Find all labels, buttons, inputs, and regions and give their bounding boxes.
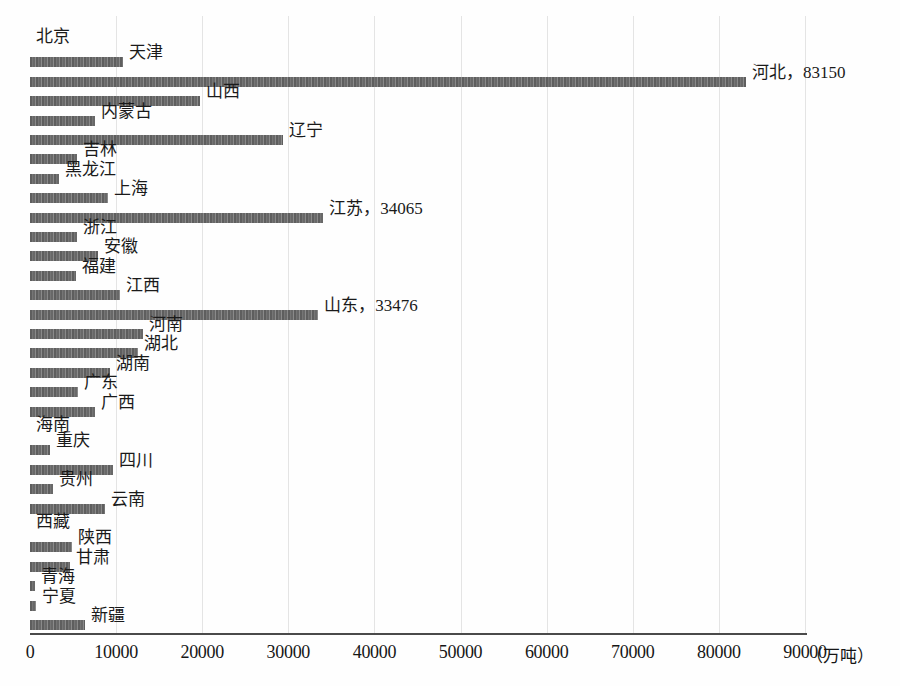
bar (30, 135, 283, 145)
x-tick-label: 80000 (697, 642, 741, 663)
bar-value-label: 宁夏 (42, 588, 76, 605)
gridline (288, 16, 289, 633)
bar (30, 174, 59, 184)
bar (30, 484, 53, 494)
bar (30, 581, 35, 591)
bar-value-label: 陕西 (78, 529, 112, 546)
bar-value-label: 湖南 (116, 355, 150, 372)
bar-value-label: 甘肃 (76, 549, 110, 566)
gridline (719, 16, 720, 633)
bar-value-label: 重庆 (56, 432, 90, 449)
gridline (374, 16, 375, 633)
bar-value-label: 北京 (36, 28, 70, 45)
plot-area: 北京天津河北，83150山西内蒙古辽宁吉林黑龙江上海江苏，34065浙江安徽福建… (30, 16, 805, 633)
x-tick-label: 0 (26, 642, 35, 663)
x-tick-label: 50000 (439, 642, 483, 663)
bar-value-label: 云南 (111, 491, 145, 508)
bar-value-label: 黑龙江 (65, 161, 116, 178)
bar-value-label: 安徽 (104, 238, 138, 255)
x-axis-line (30, 633, 807, 635)
bar (30, 271, 76, 281)
gridline (202, 16, 203, 633)
bar (30, 445, 50, 455)
bar-chart: 北京天津河北，83150山西内蒙古辽宁吉林黑龙江上海江苏，34065浙江安徽福建… (0, 0, 900, 686)
gridline (805, 16, 806, 633)
bar (30, 213, 323, 223)
bar (30, 329, 143, 339)
bar (30, 601, 36, 611)
bar-value-label: 内蒙古 (101, 103, 152, 120)
bar-value-label: 湖北 (144, 335, 178, 352)
bar-value-label: 浙江 (83, 219, 117, 236)
bar-value-label: 山西 (206, 83, 240, 100)
bar-value-label: 江西 (126, 277, 160, 294)
bar (30, 77, 746, 87)
x-tick-label: 70000 (611, 642, 655, 663)
gridline (633, 16, 634, 633)
bar-value-label: 福建 (82, 258, 116, 275)
bar-value-label: 河北，83150 (752, 64, 846, 81)
bar (30, 193, 108, 203)
gridline (547, 16, 548, 633)
gridline (461, 16, 462, 633)
x-tick-label: 10000 (94, 642, 138, 663)
x-tick-label: 40000 (353, 642, 397, 663)
bar (30, 290, 120, 300)
bar (30, 387, 78, 397)
x-tick-label: 20000 (180, 642, 224, 663)
x-tick-label: 30000 (267, 642, 311, 663)
bar-value-label: 上海 (114, 180, 148, 197)
bar-value-label: 青海 (41, 568, 75, 585)
bar-value-label: 西藏 (36, 513, 70, 530)
bar-value-label: 广东 (84, 374, 118, 391)
bar (30, 57, 123, 67)
bar-value-label: 山东，33476 (324, 297, 418, 314)
bar-value-label: 新疆 (91, 607, 125, 624)
bar (30, 620, 85, 630)
bar-value-label: 天津 (129, 44, 163, 61)
bar-value-label: 江苏，34065 (329, 200, 423, 217)
bar (30, 232, 77, 242)
x-axis-unit-label: （万吨） (806, 642, 874, 667)
bar-value-label: 贵州 (59, 471, 93, 488)
bar-value-label: 吉林 (83, 141, 117, 158)
bar-value-label: 辽宁 (289, 122, 323, 139)
bar-value-label: 河南 (149, 316, 183, 333)
bar (30, 542, 72, 552)
bar-value-label: 广西 (101, 394, 135, 411)
bar (30, 116, 95, 126)
x-tick-label: 60000 (525, 642, 569, 663)
bar-value-label: 四川 (119, 452, 153, 469)
